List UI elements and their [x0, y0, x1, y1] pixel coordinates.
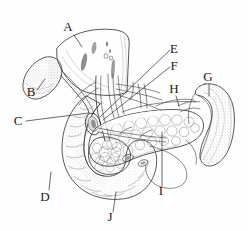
label-H: H: [169, 81, 178, 96]
anatomy-illustration: A B C D E F G H I J: [0, 0, 248, 231]
label-I: I: [159, 183, 163, 198]
label-D: D: [40, 189, 49, 204]
label-E: E: [170, 41, 178, 56]
label-F: F: [170, 58, 177, 73]
label-G: G: [203, 69, 212, 84]
label-A: A: [63, 19, 73, 34]
label-B: B: [27, 84, 36, 99]
label-C: C: [14, 113, 23, 128]
label-J: J: [107, 209, 112, 224]
anatomy-figure: A B C D E F G H I J: [0, 0, 248, 231]
